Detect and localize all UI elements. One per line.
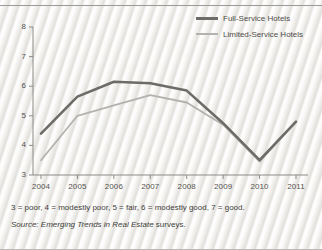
footnote-source: Source: Emerging Trends in Real Estate s… — [11, 220, 311, 230]
footnote-scale: 3 = poor, 4 = modestly poor, 5 = fair, 6… — [11, 203, 311, 213]
source-suffix: surveys. — [156, 220, 186, 229]
legend-item-limited-service: Limited-Service Hotels — [196, 27, 322, 41]
source-label: Source: — [11, 220, 39, 229]
x-tick-label: 2009 — [206, 182, 240, 191]
x-tick-label: 2008 — [170, 182, 204, 191]
x-tick-label: 2010 — [243, 182, 277, 191]
legend-label-full-service: Full-Service Hotels — [223, 14, 290, 23]
legend-swatch-limited-service — [196, 33, 218, 35]
y-tick-label: 6 — [12, 81, 26, 90]
y-tick-label: 5 — [12, 111, 26, 120]
chart-legend: Full-Service Hotels Limited-Service Hote… — [196, 11, 322, 43]
x-tick-label: 2005 — [60, 182, 94, 191]
top-divider — [0, 5, 322, 6]
x-tick-label: 2011 — [279, 182, 313, 191]
chart-figure: 34567820042005200620072008200920102011 F… — [0, 0, 322, 250]
y-tick-label: 7 — [12, 52, 26, 61]
legend-label-limited-service: Limited-Service Hotels — [223, 30, 303, 39]
x-tick-label: 2006 — [97, 182, 131, 191]
y-tick-label: 4 — [12, 140, 26, 149]
legend-swatch-full-service — [196, 17, 218, 20]
legend-item-full-service: Full-Service Hotels — [196, 11, 322, 25]
x-tick-label: 2007 — [133, 182, 167, 191]
x-tick-label: 2004 — [24, 182, 58, 191]
y-tick-label: 3 — [12, 170, 26, 179]
footnotes: 3 = poor, 4 = modestly poor, 5 = fair, 6… — [11, 203, 311, 237]
y-tick-label: 8 — [12, 22, 26, 31]
source-title: Emerging Trends in Real Estate — [41, 220, 154, 229]
